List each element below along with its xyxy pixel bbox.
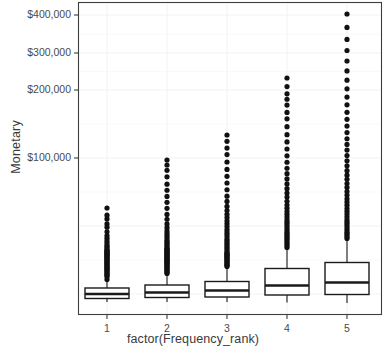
outlier-5-30	[344, 130, 349, 135]
outlier-5-41	[344, 37, 349, 42]
outlier-5-28	[344, 142, 349, 147]
outlier-5-29	[344, 136, 349, 141]
outlier-5-40	[344, 48, 349, 53]
outlier-5-43	[344, 11, 349, 16]
outlier-4-23	[284, 186, 289, 191]
outlier-1-39	[104, 213, 109, 218]
outlier-3-37	[224, 167, 229, 172]
outlier-4-30	[284, 146, 289, 151]
outlier-4-37	[284, 97, 289, 102]
outlier-4-36	[284, 102, 289, 107]
outlier-2-39	[164, 206, 169, 211]
outlier-3-40	[224, 146, 229, 151]
outlier-5-27	[344, 147, 349, 152]
outlier-4-31	[284, 139, 289, 144]
box-4	[265, 269, 309, 296]
outlier-5-37	[344, 78, 349, 83]
outlier-3-41	[224, 139, 229, 144]
outlier-2-41	[164, 194, 169, 199]
outlier-5-31	[344, 123, 349, 128]
outlier-5-33	[344, 110, 349, 115]
outlier-2-38	[164, 212, 169, 217]
outlier-2-36	[164, 221, 169, 226]
outlier-4-35	[284, 110, 289, 115]
outlier-1-40	[104, 205, 109, 210]
outlier-4-39	[284, 84, 289, 89]
outlier-2-40	[164, 200, 169, 205]
outlier-4-34	[284, 116, 289, 121]
outlier-2-43	[164, 182, 169, 187]
outlier-4-28	[284, 160, 289, 165]
outlier-3-31	[224, 204, 229, 209]
outlier-1-37	[104, 221, 109, 226]
outlier-2-37	[164, 217, 169, 222]
outlier-3-34	[224, 187, 229, 192]
outlier-3-33	[224, 194, 229, 199]
outlier-5-36	[344, 86, 349, 91]
outlier-4-29	[284, 153, 289, 158]
outlier-5-42	[344, 25, 349, 30]
outlier-1-35	[104, 229, 109, 234]
outlier-5-23	[344, 168, 349, 173]
outlier-4-40	[284, 75, 289, 80]
outlier-2-47	[164, 157, 169, 162]
outlier-5-32	[344, 117, 349, 122]
outlier-2-44	[164, 174, 169, 179]
outlier-3-35	[224, 180, 229, 185]
outlier-2-42	[164, 188, 169, 193]
outlier-3-38	[224, 159, 229, 164]
outlier-5-25	[344, 158, 349, 163]
outlier-4-24	[284, 181, 289, 186]
outlier-3-42	[224, 132, 229, 137]
outlier-5-22	[344, 173, 349, 178]
outlier-5-24	[344, 163, 349, 168]
outlier-2-45	[164, 168, 169, 173]
outlier-3-39	[224, 152, 229, 157]
outlier-4-25	[284, 176, 289, 181]
outlier-5-35	[344, 94, 349, 99]
outlier-5-34	[344, 102, 349, 107]
boxplot-figure: Monetary factor(Frequency_rank) $400,000…	[0, 0, 386, 356]
outlier-5-39	[344, 58, 349, 63]
outlier-4-38	[284, 91, 289, 96]
box-5	[325, 263, 369, 295]
outlier-4-33	[284, 124, 289, 129]
outlier-5-38	[344, 68, 349, 73]
plot-area	[0, 0, 386, 356]
outlier-4-32	[284, 132, 289, 137]
outlier-5-26	[344, 153, 349, 158]
outlier-4-27	[284, 166, 289, 171]
outlier-4-26	[284, 171, 289, 176]
outlier-3-36	[224, 174, 229, 179]
outlier-2-46	[164, 162, 169, 167]
outlier-3-32	[224, 199, 229, 204]
